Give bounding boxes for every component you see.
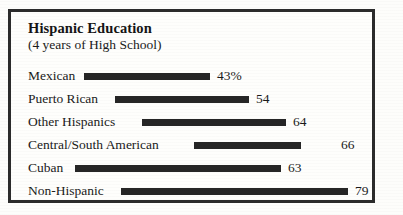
bar-label: Central/South American — [28, 136, 159, 154]
bar-label: Cuban — [28, 159, 63, 177]
bar-value-label: 54 — [256, 90, 270, 108]
bar-label: Other Hispanics — [28, 113, 115, 131]
chart-row: Cuban63 — [11, 159, 378, 181]
bar — [75, 165, 281, 172]
chart-row: Other Hispanics64 — [11, 113, 378, 135]
chart-plot-area: Hispanic Education (4 years of High Scho… — [11, 12, 378, 206]
chart-title: Hispanic Education — [28, 20, 152, 37]
bar-value-label: 43% — [217, 67, 242, 85]
bar-value-label: 63 — [288, 159, 302, 177]
chart-figure: Hispanic Education (4 years of High Scho… — [0, 0, 403, 215]
bar — [142, 119, 286, 126]
chart-row: Puerto Rican54 — [11, 90, 378, 112]
bar-label: Puerto Rican — [28, 90, 98, 108]
chart-row: Mexican43% — [11, 67, 378, 89]
bar-value-label: 66 — [341, 136, 355, 154]
bar — [84, 73, 210, 80]
chart-frame: Hispanic Education (4 years of High Scho… — [8, 9, 375, 203]
chart-row: Non-Hispanic79 — [11, 182, 378, 204]
bar-value-label: 79 — [355, 182, 369, 200]
chart-row: Central/South American66 — [11, 136, 378, 158]
bar — [121, 188, 348, 195]
bar-value-label: 64 — [293, 113, 307, 131]
bar-label: Mexican — [28, 67, 75, 85]
chart-subtitle: (4 years of High School) — [28, 37, 161, 53]
bar — [194, 142, 301, 149]
bar-label: Non-Hispanic — [28, 182, 104, 200]
bar — [115, 96, 249, 103]
